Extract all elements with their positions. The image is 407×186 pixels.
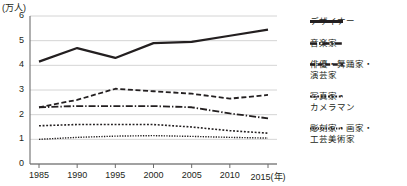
legend-label: 彫刻家・画家・ 工芸美術家 xyxy=(310,123,405,144)
legend-label: 俳優・舞踊家・ 演芸家 xyxy=(310,59,405,80)
legend-swatch-icon xyxy=(310,10,343,15)
series-line-2 xyxy=(39,89,268,108)
legend-swatch-icon xyxy=(310,32,343,37)
y-axis-tick-label: 4 xyxy=(8,59,24,69)
y-axis-tick-label: 1 xyxy=(8,133,24,143)
y-axis-tick-label: 3 xyxy=(8,84,24,94)
legend-item-3: 写真家・ カメラマン xyxy=(310,85,405,112)
y-axis-tick-label: 6 xyxy=(8,10,24,20)
series-line-0 xyxy=(39,30,268,62)
x-axis-tick-label: 2015(年) xyxy=(238,170,298,183)
legend-swatch-icon xyxy=(310,53,343,58)
legend-label: 音楽家 xyxy=(310,38,405,49)
chart-legend: デザイナー音楽家俳優・舞踊家・ 演芸家写真家・ カメラマン彫刻家・画家・ 工芸美… xyxy=(310,10,405,149)
legend-item-0: デザイナー xyxy=(310,10,405,27)
series-line-1 xyxy=(39,106,268,118)
legend-item-4: 彫刻家・画家・ 工芸美術家 xyxy=(310,117,405,144)
y-axis-tick-label: 2 xyxy=(8,109,24,119)
y-axis-tick-label: 0 xyxy=(8,158,24,168)
legend-label: 写真家・ カメラマン xyxy=(310,91,405,112)
legend-item-2: 俳優・舞踊家・ 演芸家 xyxy=(310,53,405,80)
legend-item-1: 音楽家 xyxy=(310,32,405,49)
y-axis-tick-label: 5 xyxy=(8,35,24,45)
legend-swatch-icon xyxy=(310,85,343,90)
legend-label: デザイナー xyxy=(310,16,405,27)
series-line-4 xyxy=(39,136,268,140)
chart-container: (万人) デザイナー音楽家俳優・舞踊家・ 演芸家写真家・ カメラマン彫刻家・画家… xyxy=(0,0,407,186)
series-line-3 xyxy=(39,125,268,134)
legend-swatch-icon xyxy=(310,117,343,122)
